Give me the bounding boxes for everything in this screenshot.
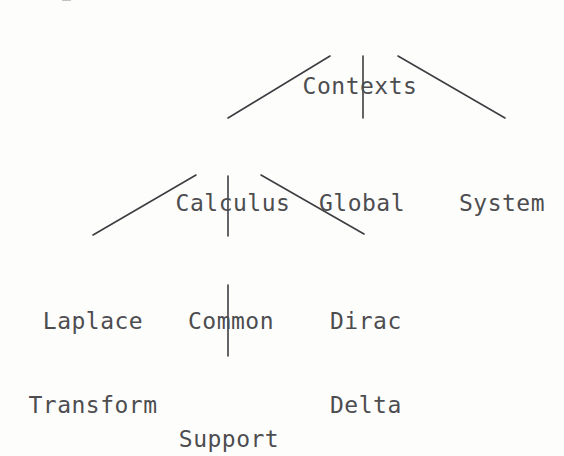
node-dirac-delta-label-line2: Delta [330,391,402,419]
node-dirac-delta-label-line1: Dirac [330,307,402,335]
node-common-label: Common [188,307,274,335]
node-system[interactable]: System [459,133,545,273]
node-dirac-delta[interactable]: Dirac Delta [330,251,402,456]
node-laplace-transform-label-line1: Laplace [28,307,157,335]
node-system-label: System [459,189,545,217]
node-contexts-label: Contexts [303,72,418,100]
node-calculus-label: Calculus [176,189,291,217]
node-laplace-transform-label-line2: Transform [28,391,157,419]
node-support-label: Support [179,425,279,453]
node-global-label: Global [319,189,405,217]
node-laplace-transform[interactable]: Laplace Transform [28,251,157,456]
node-support[interactable]: Support [179,369,279,456]
